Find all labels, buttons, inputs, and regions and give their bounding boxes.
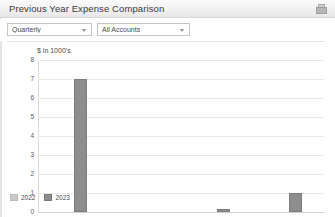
legend-swatch-2023 (44, 194, 52, 201)
gridline (38, 212, 324, 213)
legend-swatch-2022 (10, 194, 18, 201)
y-axis-tick: 3 (22, 151, 34, 158)
filter-toolbar: Quarterly All Accounts (0, 19, 335, 41)
x-axis-tick: Quarter 3 (187, 216, 247, 217)
print-icon[interactable] (316, 4, 327, 14)
plot-area (38, 60, 324, 212)
y-axis-tick: 5 (22, 113, 34, 120)
print-icon-body (316, 7, 327, 14)
gridline (38, 60, 324, 61)
account-dropdown-label: All Accounts (102, 26, 140, 33)
bar-2023-quarter-3[interactable] (217, 209, 230, 212)
account-dropdown[interactable]: All Accounts (97, 23, 190, 36)
y-axis-tick: 8 (22, 56, 34, 63)
y-axis-tick: 4 (22, 132, 34, 139)
period-dropdown-label: Quarterly (12, 26, 41, 33)
legend-item-2023[interactable]: 2023 (44, 194, 69, 201)
legend-label-2023: 2023 (55, 194, 69, 201)
chart-legend: 20222023 (10, 192, 70, 202)
chevron-down-icon (82, 29, 86, 32)
x-axis-tick: Quarter 1 (44, 216, 104, 217)
legend-label-2022: 2022 (21, 194, 35, 201)
y-axis-tick: 7 (22, 75, 34, 82)
chevron-down-icon (180, 29, 184, 32)
x-axis-tick: Quarter 2 (115, 216, 175, 217)
period-dropdown[interactable]: Quarterly (7, 23, 92, 36)
window-titlebar: Previous Year Expense Comparison (0, 0, 335, 18)
bar-2023-quarter-4[interactable] (289, 193, 302, 212)
bar-2023-quarter-1[interactable] (74, 79, 87, 212)
y-axis-tick: 2 (22, 170, 34, 177)
page-title: Previous Year Expense Comparison (9, 3, 164, 14)
chart-axis-note: $ in 1000's (37, 47, 71, 54)
y-axis-tick: 0 (22, 208, 34, 215)
expense-comparison-widget: Previous Year Expense Comparison Quarter… (0, 0, 335, 217)
x-axis-tick: Quarter 4 (258, 216, 318, 217)
legend-item-2022[interactable]: 2022 (10, 194, 35, 201)
y-axis-tick: 6 (22, 94, 34, 101)
filter-separator (7, 41, 325, 42)
